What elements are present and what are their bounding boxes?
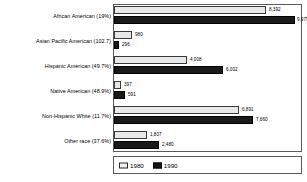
bar-value-1990: 296 [122,42,130,48]
legend-item-1990: 1990 [153,162,178,169]
bar-value-1980: 6,891 [242,107,254,113]
bar-1980 [114,131,147,139]
bar-value-1990: 2,480 [162,142,174,148]
bar-1990 [114,16,295,24]
legend-label-1980: 1980 [130,162,144,169]
bar-1980 [114,56,187,64]
bar-1990 [114,66,223,74]
bar-value-1980: 4,008 [190,57,202,63]
bar-value-1980: 8,392 [269,7,281,13]
light-swatch-icon [119,162,128,168]
bar-value-1980: 397 [124,82,132,88]
bar-1980 [114,6,266,14]
legend-label-1990: 1990 [164,162,178,169]
bar-value-1980: 1,807 [150,132,162,138]
bar-1980 [114,81,121,89]
bar-value-1990: 7,660 [256,117,268,123]
bar-value-1990: 591 [128,92,136,98]
bar-value-1990: 6,002 [226,67,238,73]
bar-1980 [114,31,132,39]
bar-value-1990: 9,979 [297,17,307,23]
legend-item-1980: 1980 [119,162,144,169]
bar-value-1980: 980 [135,32,143,38]
bar-1990 [114,41,119,49]
bar-1990 [114,116,253,124]
bar-chart: African American (19%) 8,392 9,979 Asian… [0,0,307,182]
bar-1990 [114,141,159,149]
dark-swatch-icon [153,162,162,168]
bar-1990 [114,91,125,99]
bar-1980 [114,106,239,114]
chart-legend: 1980 1990 [113,156,302,174]
